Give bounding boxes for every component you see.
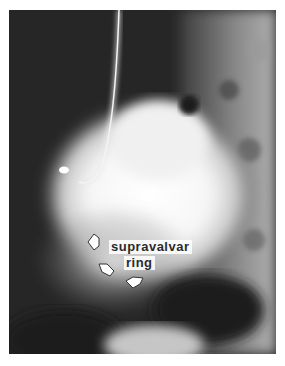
annotation-line1: supravalvar xyxy=(109,240,192,254)
arrow-icon-lower-left xyxy=(98,262,116,278)
xray-graphic xyxy=(9,10,276,354)
angiogram-image: supravalvar ring xyxy=(9,10,276,354)
arrow-icon-left xyxy=(87,232,101,252)
arrow-icon-bottom xyxy=(125,276,145,290)
annotation-line2: ring xyxy=(124,256,155,270)
